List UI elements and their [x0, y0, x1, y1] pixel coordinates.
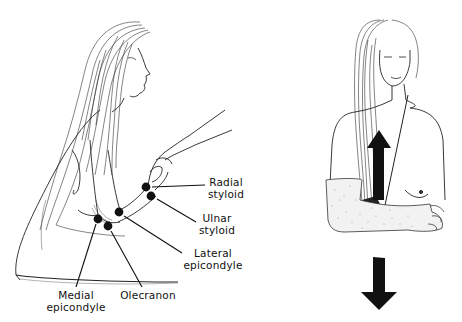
label-radial-styloid: Radial styloid: [204, 176, 248, 200]
label-medial-epicondyle: Medial epicondyle: [44, 289, 108, 313]
hair-right: [355, 20, 419, 208]
landmark-dots: [94, 183, 156, 231]
dot-medial-epicondyle: [94, 215, 103, 224]
label-lateral-epicondyle: Lateral epicondyle: [180, 247, 246, 271]
left-figure: [16, 22, 232, 284]
label-ulnar-styloid: Ulnar styloid: [196, 212, 238, 236]
down-arrow: [361, 257, 397, 310]
right-figure: [326, 20, 445, 232]
dot-olecranon: [104, 222, 113, 231]
leader-olecranon: [111, 231, 142, 287]
figure-canvas: Radial styloid Ulnar styloid Lateral epi…: [0, 0, 462, 322]
hair-left: [40, 22, 150, 230]
face-front: [380, 50, 411, 86]
label-olecranon: Olecranon: [118, 289, 178, 301]
face-profile: [130, 48, 150, 97]
dot-radial-styloid: [142, 183, 151, 192]
leader-medial-epicondyle: [76, 224, 96, 287]
dot-ulnar-styloid: [147, 192, 156, 201]
leader-lateral-epicondyle: [124, 216, 182, 253]
illustration: [0, 0, 462, 322]
leader-ulnar-styloid: [157, 199, 196, 222]
dot-lateral-epicondyle: [115, 208, 124, 217]
leader-lines: [76, 185, 205, 287]
left-shoulder: [330, 112, 355, 185]
examiner-arm: [148, 110, 225, 186]
right-shoulder: [410, 108, 445, 200]
